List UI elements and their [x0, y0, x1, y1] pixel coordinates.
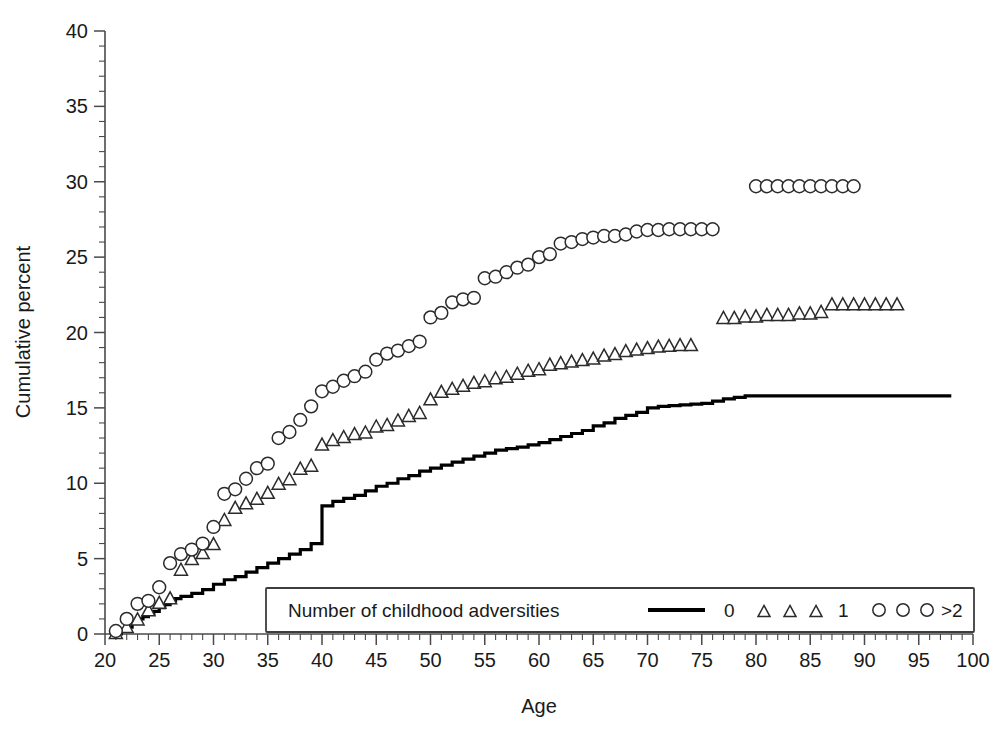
- legend-circle-sample: [897, 604, 909, 616]
- legend-label-1: 1: [838, 600, 849, 621]
- circle-marker: [305, 400, 318, 413]
- y-tick-label: 20: [66, 322, 88, 344]
- x-tick-label: 45: [365, 649, 387, 671]
- x-tick-label: 25: [148, 649, 170, 671]
- x-tick-label: 30: [202, 649, 224, 671]
- x-tick-label: 55: [474, 649, 496, 671]
- chart-container: 20253035404550556065707580859095100 0510…: [0, 0, 994, 729]
- x-tick-label: 90: [853, 649, 875, 671]
- circle-marker: [207, 521, 220, 534]
- legend[interactable]: Number of childhood adversities 01>2: [266, 588, 974, 632]
- x-tick-label: 85: [799, 649, 821, 671]
- x-tick-label: 40: [311, 649, 333, 671]
- legend-label-2: >2: [941, 600, 963, 621]
- circle-marker: [847, 180, 860, 193]
- x-tick-label: 100: [956, 649, 989, 671]
- legend-circle-sample: [873, 604, 885, 616]
- x-tick-label: 50: [419, 649, 441, 671]
- y-tick-label: 30: [66, 171, 88, 193]
- cumulative-percent-chart: 20253035404550556065707580859095100 0510…: [0, 0, 994, 729]
- circle-marker: [359, 365, 372, 378]
- circle-marker: [294, 414, 307, 427]
- legend-title: Number of childhood adversities: [288, 600, 559, 621]
- circle-marker: [706, 223, 719, 236]
- y-tick-label: 40: [66, 20, 88, 42]
- y-tick-label: 0: [77, 623, 88, 645]
- x-tick-label: 75: [691, 649, 713, 671]
- circle-marker: [283, 426, 296, 439]
- circle-marker: [120, 613, 133, 626]
- circle-marker: [229, 483, 242, 496]
- x-tick-label: 65: [582, 649, 604, 671]
- y-tick-label: 15: [66, 397, 88, 419]
- circle-marker: [164, 557, 177, 570]
- legend-label-0: 0: [724, 600, 735, 621]
- x-tick-label: 95: [908, 649, 930, 671]
- x-tick-label: 35: [257, 649, 279, 671]
- x-tick-label: 20: [94, 649, 116, 671]
- circle-marker: [196, 537, 209, 550]
- y-axis-title: Cumulative percent: [12, 245, 34, 418]
- y-tick-label: 35: [66, 95, 88, 117]
- circle-marker: [435, 307, 448, 320]
- circle-marker: [142, 594, 155, 607]
- circle-marker: [261, 457, 274, 470]
- y-tick-label: 10: [66, 472, 88, 494]
- circle-marker: [153, 581, 166, 594]
- x-axis-title: Age: [521, 695, 557, 717]
- y-tick-label: 25: [66, 246, 88, 268]
- x-tick-label: 80: [745, 649, 767, 671]
- circle-marker: [413, 335, 426, 348]
- circle-marker: [240, 472, 253, 485]
- x-tick-label: 60: [528, 649, 550, 671]
- legend-circle-sample: [921, 604, 933, 616]
- y-tick-label: 5: [77, 548, 88, 570]
- circle-marker: [468, 291, 481, 304]
- circle-marker: [109, 625, 122, 638]
- circle-marker: [543, 248, 556, 261]
- x-tick-label: 70: [636, 649, 658, 671]
